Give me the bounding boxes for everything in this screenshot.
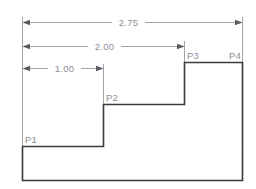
extension-lines-group [23,17,243,148]
stepped-profile-outline [23,63,243,181]
point-label-p1: P1 [25,134,37,145]
dimension-first-1-00: 1.00 [23,63,104,74]
dimension-text-first: 1.00 [55,63,74,74]
point-label-p4: P4 [229,50,241,61]
dimension-text-overall: 2.75 [119,17,138,28]
arrowhead-overall-right [235,20,243,25]
arrowhead-first-right [96,66,104,71]
arrowhead-overall-left [23,20,31,25]
point-label-p2: P2 [106,92,118,103]
dimension-overall-2-75: 2.75 [23,17,243,28]
cad-drawing-svg: 2.75 2.00 1.00 P1 P2 P3 P4 [0,0,256,189]
point-label-p3: P3 [187,50,199,61]
dimension-mid-2-00: 2.00 [23,41,185,52]
dimension-text-mid: 2.00 [95,41,114,52]
arrowhead-mid-left [23,44,31,49]
arrowhead-mid-right [177,44,185,49]
arrowhead-first-left [23,66,31,71]
cad-drawing-canvas: 2.75 2.00 1.00 P1 P2 P3 P4 [0,0,256,189]
